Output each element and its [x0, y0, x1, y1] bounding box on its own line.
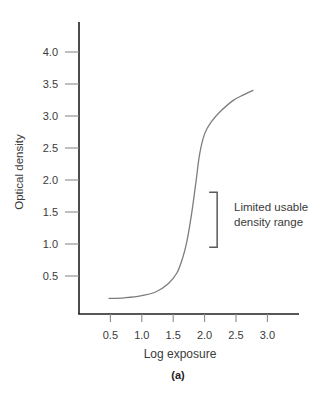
x-tick-label: 2.0	[197, 329, 212, 341]
y-tick-label: 4.0	[43, 46, 58, 58]
y-axis-label: Optical density	[13, 127, 27, 217]
y-tick-label: 1.5	[43, 206, 58, 218]
x-tick-label: 1.0	[134, 329, 149, 341]
x-tick-label: 1.5	[166, 329, 181, 341]
y-tick-label: 3.0	[43, 110, 58, 122]
density-curve	[109, 90, 253, 298]
annotation-line-1: Limited usable	[234, 200, 308, 215]
axis-ticks	[65, 52, 267, 322]
x-axis-label: Log exposure	[120, 347, 240, 361]
x-tick-label: 0.5	[103, 329, 118, 341]
x-tick-label: 2.5	[228, 329, 243, 341]
characteristic-curve-figure: 0.51.01.52.02.53.03.54.00.51.01.52.02.53…	[0, 0, 322, 397]
x-tick-label: 3.0	[260, 329, 275, 341]
range-bracket	[209, 192, 217, 247]
y-tick-label: 1.0	[43, 238, 58, 250]
annotation-limited-usable-density-range: Limited usable density range	[234, 200, 308, 230]
y-tick-label: 3.5	[43, 78, 58, 90]
y-tick-label: 2.5	[43, 142, 58, 154]
y-tick-label: 0.5	[43, 270, 58, 282]
plot-canvas: 0.51.01.52.02.53.03.54.00.51.01.52.02.53…	[0, 0, 322, 397]
annotation-line-2: density range	[234, 215, 308, 230]
density-range-bracket	[209, 192, 217, 247]
figure-caption: (a)	[138, 369, 218, 381]
characteristic-curve-path	[109, 90, 253, 298]
tick-labels: 0.51.01.52.02.53.03.54.00.51.01.52.02.53…	[43, 46, 275, 341]
axes	[78, 22, 299, 314]
y-tick-label: 2.0	[43, 174, 58, 186]
